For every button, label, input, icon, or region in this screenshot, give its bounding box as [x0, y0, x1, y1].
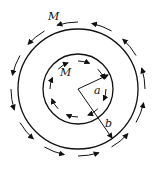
arrow-segment — [52, 99, 58, 109]
arrow-segment — [112, 134, 128, 147]
arrow-segment — [20, 123, 33, 139]
arrow-segment — [142, 68, 145, 89]
arrow-segment — [92, 23, 112, 31]
arrow-segment — [104, 89, 106, 100]
diagram-canvas: M M a b — [0, 0, 154, 170]
radius-a-label: a — [94, 84, 101, 97]
arrow-segment — [78, 153, 99, 156]
arrow-segment — [12, 56, 20, 76]
arrow-segment — [11, 89, 14, 110]
arrow-segment — [123, 39, 136, 55]
arrow-segment — [78, 61, 89, 63]
arrow-segment — [67, 115, 78, 117]
arrow-segment — [45, 147, 65, 155]
outer-M-label: M — [47, 10, 60, 23]
arrow-segment — [136, 103, 144, 123]
arrow-segment — [50, 78, 52, 89]
arrow-segment — [28, 31, 44, 44]
radius-a-line — [78, 75, 108, 89]
inner-M-label: M — [59, 66, 72, 79]
concentric-cylinders-diagram: M M a b — [0, 0, 154, 170]
radius-b-label: b — [105, 117, 112, 130]
arrow-segment — [57, 22, 78, 25]
